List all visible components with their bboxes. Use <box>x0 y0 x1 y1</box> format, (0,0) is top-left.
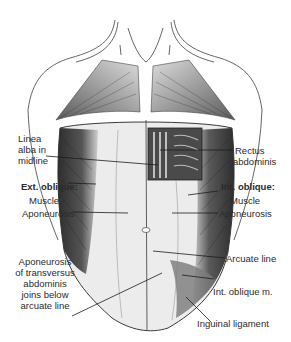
right-pectoral <box>151 60 235 120</box>
label-int-oblique-aponeurosis: Aponeurosis <box>219 208 272 219</box>
left-pectoral <box>56 60 140 120</box>
label-rectus-line-2: abdominis <box>233 156 276 167</box>
label-rectus-line-1: Rectus <box>233 145 276 156</box>
label-transversus-line-1: Aponeurosis <box>10 256 80 267</box>
label-linea-alba: Linea alba in midline <box>18 133 48 166</box>
label-rectus-abdominis: Rectus abdominis <box>233 145 276 167</box>
label-linea-alba-line-2: alba in <box>18 144 48 155</box>
label-int-oblique-title: Int. oblique: <box>221 181 275 192</box>
label-linea-alba-line-1: Linea <box>18 133 48 144</box>
neck-shoulder-outline <box>28 20 262 110</box>
label-transversus-line-4: joins below <box>10 289 80 300</box>
label-ext-oblique-muscle: Muscle <box>29 195 59 206</box>
label-int-oblique-m: Int. oblique m. <box>213 286 273 297</box>
umbilicus <box>142 228 150 233</box>
label-arcuate-line: Arcuate line <box>226 253 276 264</box>
label-transversus-aponeurosis: Aponeurosis of transversus abdominis joi… <box>10 256 80 311</box>
label-inguinal-ligament: Inguinal ligament <box>197 318 269 329</box>
label-ext-oblique-aponeurosis: Aponeurosis <box>22 208 75 219</box>
label-linea-alba-line-3: midline <box>18 155 48 166</box>
label-transversus-line-2: of transversus <box>10 267 80 278</box>
label-int-oblique-muscle: Muscle <box>230 195 260 206</box>
label-transversus-line-5: arcuate line <box>10 300 80 311</box>
label-ext-oblique-title: Ext. oblique: <box>21 181 78 192</box>
label-transversus-line-3: abdominis <box>10 278 80 289</box>
